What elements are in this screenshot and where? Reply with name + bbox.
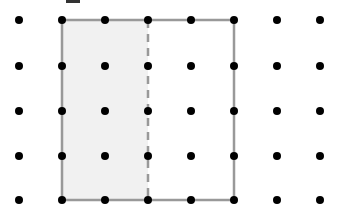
grid-dot [58, 107, 66, 115]
grid-dot [58, 62, 66, 70]
grid-dot [101, 16, 109, 24]
grid-dot [101, 62, 109, 70]
grid-dot [15, 16, 23, 24]
grid-dot [101, 196, 109, 204]
grid-dot [58, 16, 66, 24]
grid-dot [15, 196, 23, 204]
grid-dot [230, 107, 238, 115]
grid-dot [144, 62, 152, 70]
top-mark [66, 0, 80, 3]
grid-dot [316, 152, 324, 160]
grid-dot [187, 62, 195, 70]
grid-dot [273, 107, 281, 115]
grid-dot [230, 196, 238, 204]
grid-dot [273, 16, 281, 24]
grid-dot [15, 107, 23, 115]
grid-dot [273, 62, 281, 70]
dot-grid-diagram [0, 0, 338, 224]
grid-dot [187, 152, 195, 160]
grid-dot [101, 152, 109, 160]
grid-dot [316, 196, 324, 204]
grid-dot [15, 152, 23, 160]
grid-dot [316, 16, 324, 24]
grid-dot [187, 16, 195, 24]
grid-dot [101, 107, 109, 115]
grid-dot [230, 62, 238, 70]
grid-dot [316, 107, 324, 115]
top-mark-rect [66, 0, 80, 3]
diagram-canvas [0, 0, 338, 224]
grid-dot [273, 196, 281, 204]
grid-dot [316, 62, 324, 70]
grid-dot [230, 16, 238, 24]
grid-dot [144, 152, 152, 160]
grid-dot [230, 152, 238, 160]
grid-dot [144, 196, 152, 204]
grid-dot [58, 152, 66, 160]
grid-dot [187, 196, 195, 204]
grid-dot [15, 62, 23, 70]
grid-dot [58, 196, 66, 204]
grid-dot [273, 152, 281, 160]
grid-dot [144, 16, 152, 24]
grid-dot [144, 107, 152, 115]
grid-dot [187, 107, 195, 115]
